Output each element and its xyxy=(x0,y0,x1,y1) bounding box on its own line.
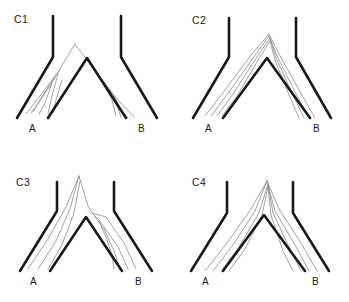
thin-lines-right-c3 xyxy=(79,176,136,269)
panel-label-c1: C1 xyxy=(14,13,28,25)
panel-label-c4: C4 xyxy=(192,176,206,188)
panel-c3: C3 A B xyxy=(0,151,174,302)
thick-arm-left-c4 xyxy=(191,182,227,271)
thin-lines-left-c1 xyxy=(26,44,75,114)
thick-arm-left-c3 xyxy=(20,182,57,271)
tip-label-a-c4: A xyxy=(202,276,209,287)
thick-arm-right-c3 xyxy=(114,182,152,271)
thin-lines-left-c2 xyxy=(205,34,270,116)
tip-label-b-c4: B xyxy=(312,276,319,287)
thick-arm-right-c1 xyxy=(121,16,157,118)
panel-c3-drawing xyxy=(0,151,174,302)
panel-label-c3: C3 xyxy=(16,176,30,188)
thin-lines-right-c1 xyxy=(75,44,134,118)
tip-label-a-c2: A xyxy=(205,123,212,134)
tip-label-b-c3: B xyxy=(135,276,142,287)
tip-label-a-c1: A xyxy=(29,123,36,134)
thin-lines-left-c4 xyxy=(205,181,268,271)
thick-arm-left-c2 xyxy=(193,18,229,118)
panel-c4: C4 A B xyxy=(175,151,349,302)
tip-label-b-c1: B xyxy=(138,123,145,134)
panel-label-c2: C2 xyxy=(192,14,206,26)
tip-label-a-c3: A xyxy=(30,276,37,287)
panel-c1: C1 A B xyxy=(0,0,174,151)
tip-label-b-c2: B xyxy=(313,123,320,134)
figure-canvas: C1 A B C2 A B xyxy=(0,0,349,302)
thick-inner-v-c2 xyxy=(223,58,310,118)
panel-c2: C2 A B xyxy=(175,0,349,151)
thick-arm-right-c4 xyxy=(293,182,329,271)
thin-lines-left-c3 xyxy=(28,176,80,269)
